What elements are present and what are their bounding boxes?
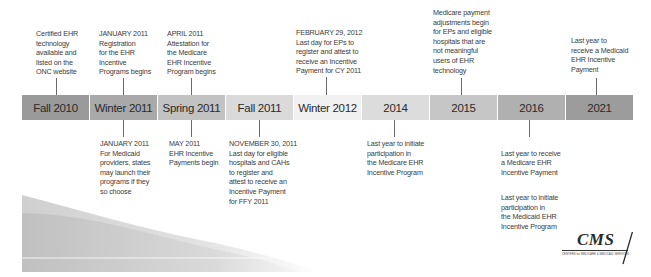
timeline-segment-2015: 2015 — [430, 95, 497, 120]
milestone-note-spring-2011-bottom: MAY 2011 EHR Incentive Payments begin — [169, 139, 218, 168]
connector-line — [123, 120, 124, 137]
connector-line — [191, 120, 192, 137]
cms-logo: CMS CENTERS for MEDICARE & MEDICAID SERV… — [565, 232, 645, 266]
milestone-note-2015: Medicare payment adjustments begin for E… — [433, 8, 492, 75]
milestone-note-2016-medicaid: Last year to initiate participation in t… — [501, 193, 561, 231]
connector-line — [191, 78, 192, 95]
timeline-segment-2021: 2021 — [566, 95, 633, 120]
connector-line — [529, 120, 530, 137]
cms-slash-icon — [565, 232, 645, 266]
milestone-note-2016: Last year to receive a Medicare EHR Ince… — [501, 139, 561, 247]
connector-line — [461, 78, 462, 95]
timeline-bar: Fall 2010 Winter 2011 Spring 2011 Fall 2… — [22, 95, 633, 120]
connector-line — [259, 120, 260, 137]
milestone-note-fall-2010: Certified EHR technology available and l… — [36, 29, 78, 77]
milestone-note-winter-2012: FEBRUARY 29, 2012 Last day for EPs to re… — [296, 28, 362, 76]
timeline-segment-winter-2011: Winter 2011 — [90, 95, 157, 120]
timeline-segment-fall-2010: Fall 2010 — [22, 95, 89, 120]
milestone-note-winter-2011-bottom: JANUARY 2011 For Medicaid providers, sta… — [100, 139, 150, 197]
milestone-note-spring-2011-top: APRIL 2011 Attestation for the Medicare … — [167, 29, 216, 77]
connector-line — [596, 78, 597, 95]
timeline-segment-winter-2012: Winter 2012 — [294, 95, 361, 120]
timeline-segment-spring-2011: Spring 2011 — [158, 95, 225, 120]
milestone-note-fall-2011: NOVEMBER 30, 2011 Last day for eligible … — [229, 139, 297, 206]
connector-line — [326, 77, 327, 95]
milestone-note-2014: Last year to initiate participation in t… — [367, 139, 424, 177]
connector-line — [394, 120, 395, 137]
milestone-note-2021: Last year to receive a Medicaid EHR Ince… — [571, 36, 628, 74]
milestone-note-winter-2011-top: JANUARY 2011 Registration for the EHR In… — [99, 29, 151, 77]
timeline-segment-2014: 2014 — [362, 95, 429, 120]
milestone-note-2016-medicare: Last year to receive a Medicare EHR Ince… — [501, 149, 561, 178]
timeline-segment-2016: 2016 — [498, 95, 565, 120]
timeline-segment-fall-2011: Fall 2011 — [226, 95, 293, 120]
connector-line — [56, 78, 57, 95]
connector-line — [123, 78, 124, 95]
